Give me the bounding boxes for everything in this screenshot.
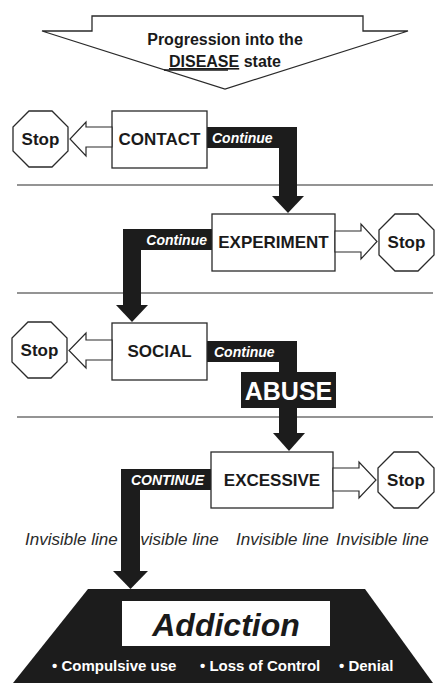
- continue-arrow-4: CONTINUE: [113, 469, 212, 589]
- stage-label-experiment: EXPERIMENT: [218, 233, 329, 252]
- hollow-arrow-right-icon: [335, 224, 377, 259]
- continue-arrow-3: Continue ABUSE: [206, 341, 336, 451]
- invisible-line-4: Invisible line: [336, 530, 429, 549]
- abuse-label: ABUSE: [245, 377, 333, 405]
- continue-arrow-2: Continue: [116, 229, 213, 322]
- addiction-progression-diagram: Progression into the DISEASE state Conti…: [0, 0, 447, 695]
- continue-label-2: Continue: [146, 232, 207, 248]
- addiction-title: Addiction: [151, 607, 300, 643]
- invisible-line-3: Invisible line: [236, 530, 329, 549]
- header-arrow: Progression into the DISEASE state: [42, 16, 408, 89]
- invisible-line-row: Invisible line Invisible line Invisible …: [25, 530, 429, 549]
- stop-label-2: Stop: [388, 233, 426, 252]
- stage-social: Continue ABUSE SOCIAL Stop: [12, 322, 336, 451]
- addiction-bullet-2: • Loss of Control: [200, 657, 320, 674]
- addiction-bullet-3: • Denial: [339, 657, 393, 674]
- addiction-bullet-1: • Compulsive use: [52, 657, 176, 674]
- stage-contact: Continue CONTACT Stop: [13, 111, 304, 213]
- continue-label-1: Continue: [212, 130, 273, 146]
- stop-label-3: Stop: [21, 341, 59, 360]
- stage-label-excessive: EXCESSIVE: [224, 471, 320, 490]
- hollow-arrow-left-icon: [70, 122, 112, 156]
- header-disease-word: DISEASE: [169, 53, 240, 70]
- continue-label-4: CONTINUE: [131, 472, 205, 488]
- continue-arrow-1: Continue: [206, 127, 304, 213]
- stop-label-4: Stop: [387, 471, 425, 490]
- hollow-arrow-right-icon: [333, 462, 376, 498]
- stage-label-social: SOCIAL: [127, 342, 191, 361]
- header-state-word: state: [239, 53, 281, 70]
- invisible-line-1: Invisible line: [25, 530, 118, 549]
- addiction-base: Addiction • Compulsive use • Loss of Con…: [13, 589, 433, 683]
- continue-label-3: Continue: [214, 344, 275, 360]
- stop-label-1: Stop: [22, 130, 60, 149]
- hollow-arrow-left-icon: [69, 333, 112, 368]
- header-line-1: Progression into the: [147, 31, 303, 48]
- stage-excessive: CONTINUE EXCESSIVE Stop: [113, 452, 434, 589]
- stage-experiment: Continue EXPERIMENT Stop: [116, 214, 434, 322]
- header-line-2: DISEASE state: [169, 53, 281, 70]
- stage-label-contact: CONTACT: [119, 130, 201, 149]
